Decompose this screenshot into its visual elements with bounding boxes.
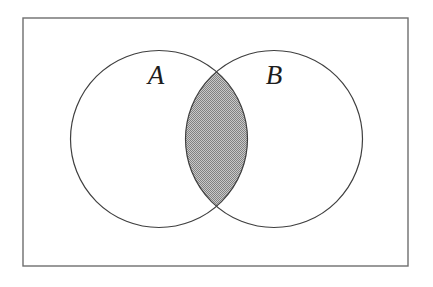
set-label-b: B (266, 60, 283, 90)
venn-diagram-figure: A B (0, 0, 433, 287)
venn-diagram-canvas: A B (0, 0, 433, 287)
set-label-a: A (146, 60, 165, 90)
